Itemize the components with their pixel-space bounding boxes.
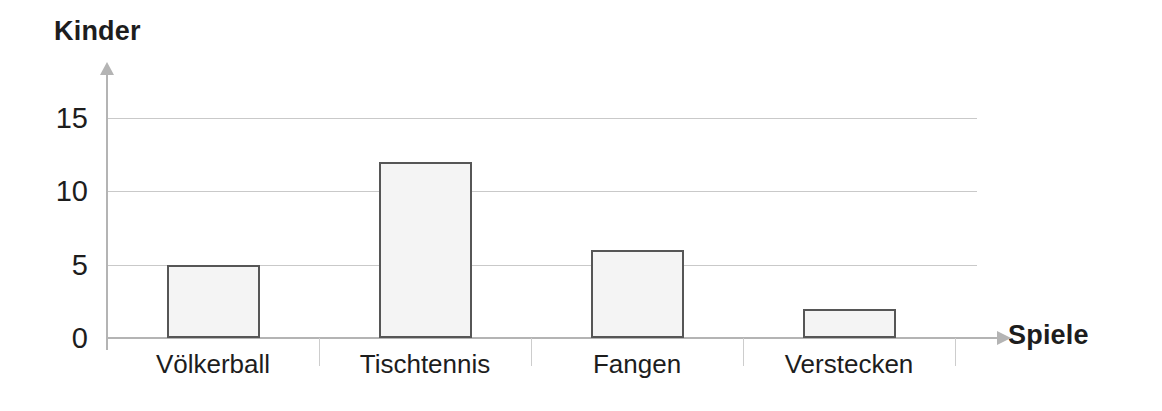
x-axis-arrow-icon — [997, 331, 1011, 345]
gridline — [107, 118, 977, 119]
x-axis-category-label: Völkerball — [156, 350, 270, 380]
x-axis-title: Spiele — [1008, 320, 1089, 351]
category-tick — [743, 338, 744, 366]
y-axis-title: Kinder — [54, 16, 141, 47]
bar — [803, 309, 896, 338]
x-axis-category-label: Verstecken — [785, 350, 914, 380]
y-axis-tick-label: 0 — [28, 324, 88, 353]
gridline — [107, 191, 977, 192]
category-tick — [531, 338, 532, 366]
bar-chart: Kinder Spiele 051015 VölkerballTischtenn… — [0, 0, 1162, 411]
y-axis-arrow-icon — [100, 62, 114, 75]
category-tick — [319, 338, 320, 366]
bar — [379, 162, 472, 338]
x-axis-category-label: Fangen — [593, 350, 681, 380]
bar — [167, 265, 260, 339]
y-axis-line — [106, 72, 108, 350]
y-axis-tick-label: 15 — [28, 103, 88, 132]
bar — [591, 250, 684, 338]
y-axis-tick-label: 5 — [28, 250, 88, 279]
x-axis-category-label: Tischtennis — [360, 350, 491, 380]
category-tick — [955, 338, 956, 366]
y-axis-tick-label: 10 — [28, 177, 88, 206]
